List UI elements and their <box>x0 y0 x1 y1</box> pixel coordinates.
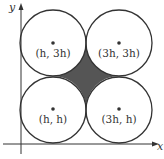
center-label: (3h, 3h) <box>98 47 140 59</box>
center-dot <box>51 107 55 111</box>
center-label: (3h, h) <box>101 113 136 125</box>
x-axis-label: x <box>157 140 164 153</box>
center-dot <box>117 107 121 111</box>
center-label: (h, h) <box>39 113 67 125</box>
center-label: (h, 3h) <box>35 47 70 59</box>
center-dot <box>51 41 55 45</box>
diagram: y x (h, 3h) (3h, 3h) (h, h) (3h, h) <box>0 0 164 159</box>
y-axis-label: y <box>8 1 16 14</box>
y-axis-arrow-icon <box>19 3 24 10</box>
center-dot <box>117 41 121 45</box>
